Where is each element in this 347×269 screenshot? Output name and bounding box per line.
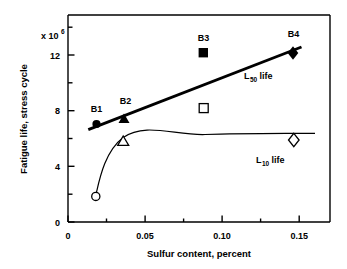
annotation-b1: B1 bbox=[91, 104, 103, 114]
annotation-b3: B3 bbox=[198, 33, 210, 43]
y-axis-ticks bbox=[68, 27, 75, 222]
y-axis-multiplier: x 10 6 bbox=[41, 28, 65, 41]
x-axis-ticks bbox=[68, 216, 299, 223]
x-tick-label-0: 0 bbox=[65, 231, 70, 241]
annotation-b4: B4 bbox=[288, 29, 300, 39]
data-point-b1-circle bbox=[92, 120, 100, 128]
y-multiplier-base: x 10 bbox=[41, 31, 59, 41]
chart-canvas: 0 4 8 12 x 10 6 0 0.05 0.10 0.15 Sulfur … bbox=[0, 0, 347, 269]
y-tick-label-8: 8 bbox=[55, 106, 60, 116]
series-label-l10-suffix: life bbox=[272, 155, 285, 165]
series-label-l50: L 50 life bbox=[244, 71, 273, 83]
plot-frame bbox=[68, 15, 330, 222]
x-tick-label-005: 0.05 bbox=[136, 231, 154, 241]
data-point-o3-square bbox=[199, 104, 208, 113]
series-label-l10: L 10 life bbox=[256, 155, 285, 167]
x-tick-label-015: 0.15 bbox=[290, 231, 308, 241]
series-label-l10-sub: 10 bbox=[262, 160, 270, 167]
series-label-l50-suffix: life bbox=[260, 71, 273, 81]
data-point-o4-diamond bbox=[289, 133, 300, 146]
data-point-o1-circle bbox=[92, 192, 100, 200]
series-label-l50-sub: 50 bbox=[250, 76, 258, 83]
y-tick-label-0: 0 bbox=[55, 218, 60, 228]
data-point-b3-square bbox=[199, 48, 208, 57]
annotation-b2: B2 bbox=[120, 96, 132, 106]
y-multiplier-exponent: 6 bbox=[61, 28, 65, 35]
l50-life-fit-line bbox=[88, 47, 301, 130]
y-tick-label-12: 12 bbox=[50, 51, 60, 61]
y-tick-label-4: 4 bbox=[55, 162, 60, 172]
y-axis-title: Fatigue life, stress cycle bbox=[18, 64, 29, 174]
x-axis-title: Sulfur content, percent bbox=[147, 248, 252, 259]
x-tick-label-010: 0.10 bbox=[213, 231, 231, 241]
fatigue-life-chart: 0 4 8 12 x 10 6 0 0.05 0.10 0.15 Sulfur … bbox=[0, 0, 347, 269]
